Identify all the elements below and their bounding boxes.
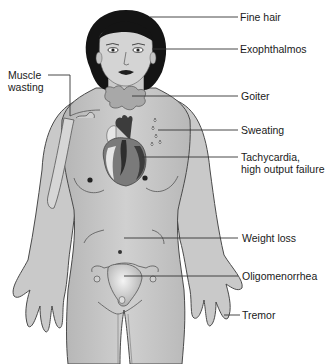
label-sweating: Sweating bbox=[241, 124, 284, 136]
label-tachycardia: Tachycardia, high output failure bbox=[241, 151, 324, 175]
hyperthyroidism-diagram: Fine hair Exophthalmos Muscle wasting Go… bbox=[0, 0, 333, 364]
label-muscle-wasting: Muscle wasting bbox=[8, 69, 44, 93]
label-goiter: Goiter bbox=[241, 90, 270, 102]
goiter bbox=[105, 86, 146, 110]
label-exophthalmos: Exophthalmos bbox=[240, 43, 307, 55]
navel bbox=[118, 250, 122, 254]
label-tremor: Tremor bbox=[242, 309, 275, 321]
label-oligomenorrhea: Oligomenorrhea bbox=[242, 270, 317, 282]
label-fine-hair: Fine hair bbox=[240, 11, 281, 23]
label-weight-loss: Weight loss bbox=[242, 232, 296, 244]
